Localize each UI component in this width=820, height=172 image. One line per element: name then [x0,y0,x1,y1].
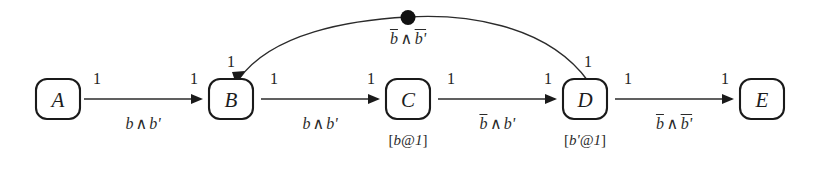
guard-label-d-e: b∧b' [655,116,692,132]
state-label-a: A [52,90,65,111]
weight-b-top: 1 [227,54,235,70]
state-annotation-c: [b@1] [389,133,428,148]
weight-d-in: 1 [544,71,552,87]
junction-dot-icon [401,10,416,25]
state-annotation-d: [b'@1] [564,133,606,148]
guard-label-d-b: b∧b' [389,31,426,47]
weight-d-top: 1 [584,54,592,70]
weight-d-out: 1 [624,71,632,87]
weight-c-out: 1 [447,71,455,87]
arrowhead-d-e [722,94,734,104]
automaton-diagram: A B C D E [b@1] [b'@1] 1 1 1 1 1 1 1 1 1… [0,0,820,172]
guard-label-a-b: b∧b' [125,116,160,132]
weight-e-in: 1 [721,71,729,87]
state-label-b: B [225,90,238,111]
guard-label-b-c: b∧b' [302,116,337,132]
weight-b-out: 1 [270,71,278,87]
state-label-c: C [401,90,415,111]
state-label-e: E [756,90,769,111]
arrowhead-b-c [368,94,380,104]
guard-label-c-d: b∧b' [479,116,515,132]
arrowhead-a-b [191,94,203,104]
weight-b-in: 1 [190,71,198,87]
weight-a-out: 1 [93,71,101,87]
edge-arc-d-b [239,16,588,81]
weight-c-in: 1 [367,71,375,87]
state-label-d: D [577,90,592,111]
arrowhead-c-d [545,94,557,104]
